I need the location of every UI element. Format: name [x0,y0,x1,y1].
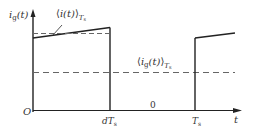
pulse1-top [33,28,110,39]
x-axis-arrow-icon [233,108,242,113]
Ts-label: Ts [192,116,201,127]
avg-ig-label: ⟨ig(t)⟩Ts [137,56,172,70]
y-axis-label: ig(t) [9,9,29,22]
waveform-diagram: ig(t) ⟨i(t)⟩Ts ⟨ig(t)⟩Ts O dTs 0 Ts t [0,0,253,129]
y-axis-arrow-icon [31,9,36,17]
t-axis-label: t [234,114,239,125]
zero-label: 0 [150,100,156,110]
dTs-label: dTs [102,116,117,127]
pulse2-top [195,33,235,38]
avg-i-label: ⟨i(t)⟩Ts [56,8,87,22]
origin-label: O [23,106,31,117]
